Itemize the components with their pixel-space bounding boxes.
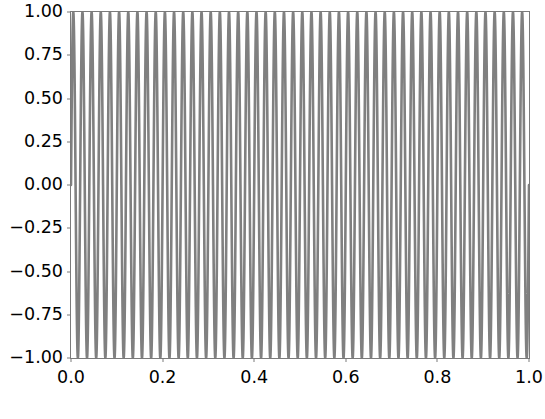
y-tick-label: 0.75 <box>24 47 71 65</box>
y-tick-label: 0.25 <box>24 133 71 151</box>
x-tick-label: 1.0 <box>515 358 543 387</box>
y-tick-label: 0.00 <box>24 176 71 194</box>
y-tick-label: 1.00 <box>24 3 71 21</box>
sine-wave-line <box>71 12 529 358</box>
x-tick-label: 0.8 <box>423 358 451 387</box>
y-tick-label: −0.75 <box>9 306 71 324</box>
y-tick-label: −0.50 <box>9 263 71 281</box>
x-tick-label: 0.0 <box>57 358 85 387</box>
y-tick-label: 0.50 <box>24 90 71 108</box>
x-tick-label: 0.4 <box>240 358 268 387</box>
x-tick-label: 0.2 <box>149 358 177 387</box>
x-tick-label: 0.6 <box>332 358 360 387</box>
figure: 1.000.750.500.250.00−0.25−0.50−0.75−1.00… <box>0 0 545 419</box>
y-tick-label: −0.25 <box>9 220 71 238</box>
plot-axes: 1.000.750.500.250.00−0.25−0.50−0.75−1.00… <box>70 11 530 359</box>
